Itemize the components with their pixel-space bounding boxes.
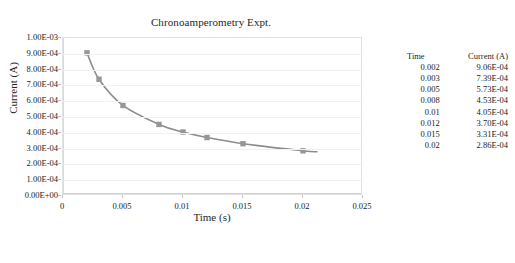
cell-current: 2.86E-04 [446,140,510,151]
table-row: 0.0029.06E-04 [406,61,510,72]
gridline [63,70,361,71]
cell-time: 0.01 [406,106,446,117]
y-tick-label: 6.00E-04 [2,95,58,105]
table-row: 0.0123.70E-04 [406,117,510,128]
gridline [63,85,361,86]
data-point-marker [120,103,125,108]
y-tick-label: 4.00E-04 [2,127,58,137]
x-tick-mark [242,195,243,198]
chart-title: Chronoamperometry Expt. [60,16,362,28]
gridline [63,149,361,150]
table-row: 0.022.86E-04 [406,140,510,151]
gridline [63,133,361,134]
y-tick-mark [58,116,61,117]
cell-time: 0.005 [406,84,446,95]
table-row: 0.0037.39E-04 [406,72,510,83]
x-tick-label: 0.005 [112,201,131,211]
x-tick-label: 0 [60,201,64,211]
data-point-marker [96,77,101,82]
x-axis-title: Time (s) [62,211,362,223]
y-tick-label: 7.00E-04 [2,79,58,89]
data-table-element: Time Current (A) 0.0029.06E-040.0037.39E… [406,50,510,151]
cell-time: 0.015 [406,128,446,139]
gridline [63,54,361,55]
cell-current: 5.73E-04 [446,84,510,95]
cell-current: 4.05E-04 [446,106,510,117]
data-point-marker [240,141,245,146]
table-row: 0.014.05E-04 [406,106,510,117]
y-tick-mark [58,100,61,101]
y-tick-label: 3.00E-04 [2,143,58,153]
cell-time: 0.02 [406,140,446,151]
y-tick-label: 1.00E-04 [2,174,58,184]
table-row: 0.0055.73E-04 [406,84,510,95]
cell-current: 9.06E-04 [446,61,510,72]
cell-current: 7.39E-04 [446,72,510,83]
y-tick-label: 1.00E-03 [2,32,58,42]
y-tick-mark [58,37,61,38]
table-header-row: Time Current (A) [406,50,510,61]
y-tick-mark [58,163,61,164]
column-header-current: Current (A) [446,50,510,61]
series-line [87,53,317,152]
gridline [63,117,361,118]
x-tick-mark [62,195,63,198]
gridline [63,164,361,165]
cell-time: 0.002 [406,61,446,72]
table-body: 0.0029.06E-040.0037.39E-040.0055.73E-040… [406,61,510,151]
table-row: 0.0153.31E-04 [406,128,510,139]
column-header-time: Time [406,50,446,61]
y-tick-mark [58,148,61,149]
y-tick-mark [58,69,61,70]
x-tick-mark [182,195,183,198]
y-tick-mark [58,53,61,54]
cell-current: 4.53E-04 [446,95,510,106]
x-tick-label: 0.015 [232,201,251,211]
y-tick-label: 9.00E-04 [2,48,58,58]
y-tick-mark [58,84,61,85]
y-tick-label: 0.00E+00 [2,190,58,200]
x-tick-label: 0.01 [175,201,190,211]
cell-time: 0.003 [406,72,446,83]
data-table: Time Current (A) 0.0029.06E-040.0037.39E… [406,50,510,151]
cell-current: 3.31E-04 [446,128,510,139]
x-tick-label: 0.02 [295,201,310,211]
cell-current: 3.70E-04 [446,117,510,128]
y-tick-mark [58,195,61,196]
y-axis-ticks: 0.00E+001.00E-042.00E-043.00E-044.00E-04… [0,37,58,195]
y-tick-label: 5.00E-04 [2,111,58,121]
table-row: 0.0084.53E-04 [406,95,510,106]
screenshot-root: Chronoamperometry Expt. Current (A) 0.00… [0,0,515,263]
plot-area [62,37,362,195]
cell-time: 0.012 [406,117,446,128]
chart-container: Chronoamperometry Expt. Current (A) 0.00… [0,4,380,259]
y-tick-mark [58,179,61,180]
gridline [63,180,361,181]
x-tick-mark [362,195,363,198]
cell-time: 0.008 [406,95,446,106]
gridline [63,101,361,102]
y-tick-mark [58,132,61,133]
y-tick-label: 2.00E-04 [2,158,58,168]
x-tick-mark [122,195,123,198]
y-tick-label: 8.00E-04 [2,64,58,74]
data-point-marker [204,135,209,140]
data-point-marker [156,122,161,127]
x-tick-mark [302,195,303,198]
x-tick-label: 0.025 [352,201,371,211]
